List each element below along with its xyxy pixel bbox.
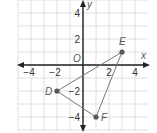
x-tick-label: −2 xyxy=(49,67,61,78)
y-tick-label: 2 xyxy=(74,34,80,45)
triangle-outline xyxy=(57,52,122,117)
y-axis-top-arrow-icon xyxy=(80,0,86,7)
triangle-def xyxy=(57,52,122,117)
vertex-d-point xyxy=(54,88,59,93)
x-tick-label: 2 xyxy=(106,67,112,78)
vertex-e-label: E xyxy=(119,36,126,47)
x-tick-label: −4 xyxy=(23,67,35,78)
vertex-d-label: D xyxy=(45,86,52,97)
x-axis-right-arrow-icon xyxy=(143,62,150,68)
x-axis-label: x xyxy=(140,50,147,61)
axes xyxy=(17,0,150,132)
x-tick-label: 4 xyxy=(132,67,138,78)
y-tick-label: −4 xyxy=(69,112,81,123)
coordinate-plane: −4−22442−2−4 DEF x y O xyxy=(0,0,157,133)
y-axis-label: y xyxy=(86,0,93,10)
vertex-e-point xyxy=(119,49,124,54)
y-tick-label: −2 xyxy=(69,86,81,97)
y-axis-bottom-arrow-icon xyxy=(80,125,86,132)
origin-label: O xyxy=(73,53,81,64)
y-tick-label: 4 xyxy=(74,8,80,19)
vertex-f-point xyxy=(93,114,98,119)
vertex-f-label: F xyxy=(101,112,108,123)
